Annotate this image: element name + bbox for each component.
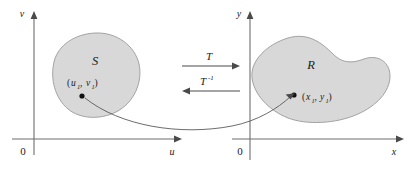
u1v1-open-paren: ( xyxy=(67,78,70,89)
inverse-map-label-base: T xyxy=(200,75,207,87)
forward-map-label: T xyxy=(206,50,213,62)
x1y1-open-paren: ( xyxy=(302,92,305,103)
inverse-map-arrowhead xyxy=(182,88,190,95)
u1v1-comma: , xyxy=(80,78,82,88)
u1v1-close-paren: ) xyxy=(95,78,98,89)
transformation-figure: v u 0 S ( u 1 , v 1 ) y x 0 R ( x 1 , y … xyxy=(0,0,417,175)
x-axis-arrowhead xyxy=(396,136,404,143)
inverse-map-label: T -1 xyxy=(200,74,214,88)
u-axis-label: u xyxy=(170,146,175,157)
forward-map-arrow xyxy=(182,63,240,70)
u1v1-var-u: u xyxy=(71,78,76,88)
v-axis-arrowhead xyxy=(31,11,38,19)
y-axis-label: y xyxy=(236,8,242,19)
x1y1-var-y: y xyxy=(319,92,325,102)
region-r-shape xyxy=(252,36,390,122)
x-axis-label: x xyxy=(391,146,397,157)
left-origin-label: 0 xyxy=(20,145,26,157)
forward-map-arrowhead xyxy=(232,63,240,70)
u-axis-arrowhead xyxy=(174,136,182,143)
x1y1-close-paren: ) xyxy=(329,92,332,103)
v-axis-label: v xyxy=(20,8,25,19)
x1y1-var-x: x xyxy=(305,92,311,102)
region-s-label: S xyxy=(92,54,99,68)
right-origin-label: 0 xyxy=(237,145,243,157)
x1y1-comma: , xyxy=(315,92,317,102)
inverse-map-arrow xyxy=(182,88,240,95)
point-u1v1-dot xyxy=(79,93,84,98)
region-r-label: R xyxy=(306,58,315,72)
y-axis-arrowhead xyxy=(247,11,254,19)
inverse-map-label-exponent: -1 xyxy=(208,74,214,82)
region-s-shape xyxy=(53,33,140,117)
